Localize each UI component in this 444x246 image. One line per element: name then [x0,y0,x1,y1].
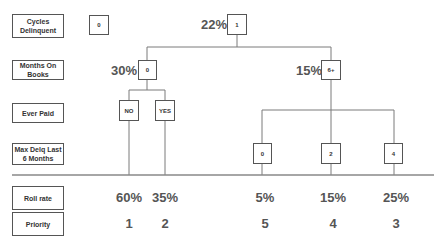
roll-rate-value: 35% [145,190,185,205]
node-cycles-1: 1 [227,14,247,35]
roll-rate-value: 60% [109,190,149,205]
row-label-max-delq: Max Delq Last 6 Months [12,143,64,165]
node-ever-paid-yes: YES [155,100,175,121]
priority-value: 4 [313,216,353,231]
rate-mob-6plus: 15% [296,63,322,78]
rate-cycles-1: 22% [201,17,227,32]
roll-rate-value: 15% [313,190,353,205]
tree-connector-lines [0,0,444,246]
row-label-priority: Priority [12,212,64,236]
rate-mob-0: 30% [111,63,137,78]
row-label-roll-rate: Roll rate [12,186,64,210]
priority-value: 5 [245,216,285,231]
priority-value: 2 [145,216,185,231]
roll-rate-value: 25% [376,190,416,205]
row-label-cycles-delinquent: Cycles Delinquent [12,14,64,38]
node-mob-0: 0 [138,60,157,80]
node-max-delq-4: 4 [384,143,403,164]
node-max-delq-0: 0 [253,143,272,164]
node-max-delq-2: 2 [321,143,341,164]
row-label-months-on-books: Months On Books [12,60,64,80]
node-cycles-0: 0 [89,15,109,35]
node-mob-6plus: 6+ [321,60,341,80]
node-ever-paid-no: NO [119,100,139,121]
priority-value: 3 [376,216,416,231]
roll-rate-value: 5% [245,190,285,205]
row-label-ever-paid: Ever Paid [12,103,64,123]
priority-value: 1 [109,216,149,231]
